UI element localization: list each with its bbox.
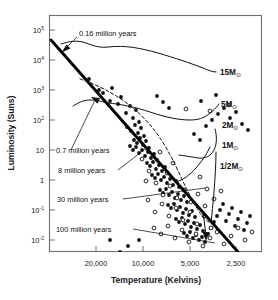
- data-point-open: [195, 222, 199, 226]
- data-point-filled: [151, 160, 155, 164]
- data-point-filled: [160, 169, 164, 173]
- data-point-filled: [183, 222, 187, 226]
- data-point-filled: [131, 148, 135, 152]
- data-point-open: [201, 244, 205, 248]
- data-point-open: [140, 157, 144, 161]
- data-point-filled: [210, 118, 214, 122]
- data-point-filled: [248, 214, 252, 218]
- data-point-open: [146, 198, 150, 202]
- data-point-open: [188, 210, 192, 214]
- data-point-open: [158, 150, 162, 154]
- data-point-filled: [236, 217, 240, 221]
- age-label-8-myr: 8 million years: [58, 166, 106, 175]
- data-point-filled: [167, 106, 171, 110]
- data-point-open: [184, 107, 188, 111]
- data-point-filled: [221, 202, 225, 206]
- data-point-filled: [155, 94, 159, 98]
- data-point-filled: [185, 234, 189, 238]
- data-point-open: [229, 234, 233, 238]
- age-label-0-16-myr: 0.16 million years: [79, 29, 137, 38]
- data-point-open: [208, 236, 212, 240]
- data-point-filled: [184, 207, 188, 211]
- y-axis-title: Luminosity (Suns): [6, 95, 16, 170]
- data-point-filled: [137, 120, 141, 124]
- data-point-filled: [132, 138, 136, 142]
- age-label-30-myr: 30 million years: [57, 195, 109, 204]
- data-point-filled: [158, 188, 162, 192]
- data-point-open: [168, 184, 172, 188]
- data-point-filled: [228, 116, 232, 120]
- data-point-filled: [230, 206, 234, 210]
- data-point-filled: [178, 205, 182, 209]
- hr-diagram-figure: 105 104 103 102 10 1 10-1 10-2: [0, 0, 278, 300]
- data-point-open: [153, 210, 157, 214]
- hr-diagram-svg: 105 104 103 102 10 1 10-1 10-2: [0, 0, 278, 300]
- data-point-open: [154, 181, 158, 185]
- data-point-open: [198, 175, 202, 179]
- x-axis-title: Temperature (Kelvins): [111, 275, 201, 285]
- data-point-filled: [167, 193, 171, 197]
- data-point-filled: [156, 172, 160, 176]
- data-point-open: [209, 226, 213, 230]
- data-point-open: [175, 196, 179, 200]
- data-point-filled: [240, 122, 244, 126]
- data-point-filled: [176, 192, 180, 196]
- data-point-filled: [159, 178, 163, 182]
- data-point-filled: [101, 91, 105, 95]
- data-point-filled: [143, 154, 147, 158]
- age-label-100-myr: 100 million years: [56, 225, 112, 234]
- data-point-filled: [128, 144, 132, 148]
- data-point-filled: [139, 126, 143, 130]
- data-point-filled: [142, 134, 146, 138]
- data-point-filled: [162, 175, 166, 179]
- data-point-filled: [215, 214, 219, 218]
- x-tick-label-20000: 20,000: [85, 259, 108, 268]
- data-point-filled: [234, 110, 238, 114]
- data-point-filled: [203, 240, 207, 244]
- data-point-filled: [133, 123, 137, 127]
- data-point-filled: [153, 176, 157, 180]
- y-tick-label-1: 1: [40, 176, 44, 185]
- data-point-filled: [174, 217, 178, 221]
- data-point-filled: [242, 228, 246, 232]
- data-point-filled: [189, 225, 193, 229]
- data-point-open: [194, 232, 198, 236]
- data-point-filled: [165, 181, 169, 185]
- data-point-filled: [164, 187, 168, 191]
- data-point-open: [250, 230, 254, 234]
- data-point-filled: [246, 128, 250, 132]
- data-point-filled: [218, 208, 222, 212]
- data-point-open: [187, 240, 191, 244]
- data-point-filled: [145, 161, 149, 165]
- data-point-open: [219, 189, 223, 193]
- data-point-open: [152, 226, 156, 230]
- data-point-filled: [195, 227, 199, 231]
- data-point-filled: [166, 203, 170, 207]
- data-point-filled: [131, 116, 135, 120]
- data-point-filled: [169, 206, 173, 210]
- data-point-filled: [200, 235, 204, 239]
- data-point-filled: [179, 198, 183, 202]
- data-point-filled: [108, 99, 112, 103]
- data-point-filled: [188, 230, 192, 234]
- data-point-filled: [124, 111, 128, 115]
- data-point-filled: [172, 202, 176, 206]
- data-point-filled: [185, 200, 189, 204]
- data-point-open: [222, 242, 226, 246]
- data-point-filled: [126, 244, 130, 248]
- data-point-open: [174, 206, 178, 210]
- data-point-filled: [245, 221, 249, 225]
- data-point-open: [243, 238, 247, 242]
- data-point-filled: [214, 93, 218, 97]
- data-point-open: [167, 214, 171, 218]
- data-point-filled: [216, 112, 220, 116]
- data-point-filled: [182, 194, 186, 198]
- data-point-filled: [161, 100, 165, 104]
- data-point-filled: [198, 138, 202, 142]
- data-point-filled: [193, 215, 197, 219]
- data-point-open: [181, 218, 185, 222]
- data-point-filled: [186, 219, 190, 223]
- data-point-filled: [150, 173, 154, 177]
- data-point-filled: [239, 210, 243, 214]
- data-point-filled: [204, 124, 208, 128]
